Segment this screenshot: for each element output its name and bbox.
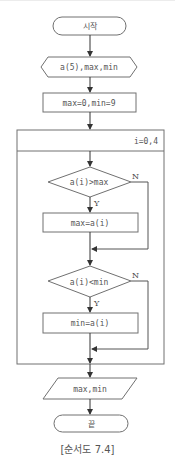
end-label: 끝 (88, 420, 95, 429)
input-label: a(5),max,min (60, 63, 118, 72)
cond2-label: a(i)<min (70, 278, 109, 287)
cond2-yes-label: Y (93, 299, 100, 308)
init-label: max=0,min=9 (63, 99, 116, 108)
cond1-yes-label: Y (93, 199, 100, 208)
flowchart: 시작 a(5),max,min max=0,min=9 i=0,4 a(i)>m… (0, 0, 175, 462)
loop-label: i=0,4 (134, 137, 158, 146)
output-label: max,min (73, 385, 107, 394)
assign1-label: max=a(i) (71, 219, 110, 228)
cond1-label: a(i)>max (70, 178, 109, 187)
start-label: 시작 (83, 21, 98, 31)
figure-caption: [순서도 7.4] (0, 441, 175, 456)
cond2-no-label: N (132, 271, 139, 280)
cond1-no-label: N (132, 172, 139, 181)
assign2-label: min=a(i) (71, 319, 110, 328)
